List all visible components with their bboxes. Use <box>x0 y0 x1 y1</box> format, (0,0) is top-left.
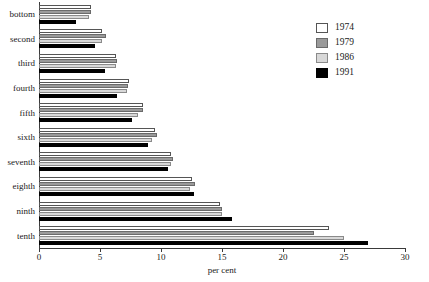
bar-1974-sixth <box>39 128 155 132</box>
category-label: fifth <box>20 108 36 117</box>
legend-label-1991: 1991 <box>335 68 354 78</box>
bar-1979-fourth <box>39 84 128 88</box>
bar-1986-tenth <box>39 236 344 240</box>
x-axis-tick-label: 30 <box>401 253 410 262</box>
category-label: second <box>10 34 35 43</box>
bar-1974-fourth <box>39 79 129 83</box>
bar-1991-third <box>39 69 105 73</box>
category-label: seventh <box>8 157 36 166</box>
category-label: bottom <box>9 10 35 19</box>
bar-1974-bottom <box>39 5 91 9</box>
bar-1991-second <box>39 44 95 48</box>
bar-1986-seventh <box>39 162 171 166</box>
bar-1974-tenth <box>39 226 329 230</box>
bar-1986-third <box>39 64 116 68</box>
bar-1979-bottom <box>39 10 91 14</box>
bar-1991-sixth <box>39 143 148 147</box>
bar-chart: bottomsecondthirdfourthfifthsixthseventh… <box>0 0 429 282</box>
x-axis-tick-label: 20 <box>279 253 288 262</box>
legend-item: 1979 <box>316 35 354 50</box>
bar-group: ninth <box>39 199 405 224</box>
bar-group: seventh <box>39 150 405 175</box>
bar-1991-seventh <box>39 167 168 171</box>
x-axis-tick-label: 0 <box>37 253 42 262</box>
x-axis-tick-label: 15 <box>218 253 227 262</box>
bar-1974-ninth <box>39 202 220 206</box>
x-axis-title: per cent <box>39 266 405 275</box>
x-axis-tick-label: 10 <box>157 253 166 262</box>
legend-item: 1991 <box>316 65 354 80</box>
bar-1979-sixth <box>39 133 157 137</box>
x-axis-tick-label: 5 <box>98 253 103 262</box>
legend-swatch-1986 <box>316 53 328 63</box>
bar-1986-second <box>39 39 102 43</box>
bar-1991-bottom <box>39 20 76 24</box>
category-label: fourth <box>13 84 35 93</box>
legend-label-1986: 1986 <box>335 53 354 63</box>
bar-1991-eighth <box>39 192 194 196</box>
bar-1974-seventh <box>39 152 171 156</box>
bar-group: fifth <box>39 100 405 125</box>
category-label: ninth <box>16 207 35 216</box>
bar-1991-fifth <box>39 118 132 122</box>
bar-group: eighth <box>39 174 405 199</box>
bar-1974-third <box>39 54 116 58</box>
bar-1986-ninth <box>39 212 222 216</box>
category-label: tenth <box>17 231 35 240</box>
category-label: sixth <box>17 133 35 142</box>
bar-1991-fourth <box>39 94 117 98</box>
legend-item: 1974 <box>316 20 354 35</box>
bar-1974-fifth <box>39 103 143 107</box>
bar-1986-eighth <box>39 187 190 191</box>
legend-swatch-1974 <box>316 23 328 33</box>
bar-1979-seventh <box>39 157 173 161</box>
bar-1974-second <box>39 29 102 33</box>
chart-legend: 1974 1979 1986 1991 <box>316 20 354 80</box>
legend-swatch-1979 <box>316 38 328 48</box>
x-axis-tick-label: 25 <box>340 253 349 262</box>
bar-1991-ninth <box>39 217 232 221</box>
bar-1979-eighth <box>39 182 195 186</box>
bar-1986-fourth <box>39 89 127 93</box>
legend-item: 1986 <box>316 50 354 65</box>
bar-1979-tenth <box>39 231 314 235</box>
category-label: third <box>18 59 35 68</box>
bar-1986-fifth <box>39 113 138 117</box>
bar-1979-third <box>39 59 117 63</box>
bar-1979-fifth <box>39 108 143 112</box>
bar-1991-tenth <box>39 241 368 245</box>
legend-swatch-1991 <box>316 68 328 78</box>
bar-1979-second <box>39 34 106 38</box>
bar-1986-bottom <box>39 15 89 19</box>
bar-1986-sixth <box>39 138 152 142</box>
legend-label-1979: 1979 <box>335 38 354 48</box>
bar-1974-eighth <box>39 177 192 181</box>
legend-label-1974: 1974 <box>335 23 354 33</box>
category-label: eighth <box>13 182 36 191</box>
bar-group: tenth <box>39 223 405 248</box>
bar-1979-ninth <box>39 207 222 211</box>
bar-group: sixth <box>39 125 405 150</box>
